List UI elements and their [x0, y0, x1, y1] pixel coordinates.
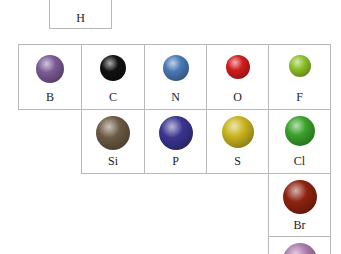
element-symbol: O [207, 90, 268, 105]
element-cell-br: Br [268, 173, 331, 237]
element-cell-c: C [81, 44, 145, 110]
atom-sphere-icon [283, 180, 317, 214]
element-cell-n: N [144, 44, 207, 110]
atom-sphere-icon [283, 243, 317, 254]
element-symbol: C [82, 90, 144, 105]
element-symbol: Br [269, 218, 330, 233]
atom-sphere-icon [159, 116, 193, 150]
element-cell-i: I [268, 236, 331, 254]
element-cell-s: S [206, 109, 269, 174]
atom-sphere-icon [36, 55, 64, 83]
element-symbol: P [145, 154, 206, 169]
element-cell-f: F [268, 44, 331, 110]
element-symbol: S [207, 154, 268, 169]
atom-sphere-icon [289, 55, 311, 77]
atom-sphere-icon [163, 55, 189, 81]
atom-sphere-icon [222, 116, 254, 148]
atom-sphere-icon [285, 116, 315, 146]
element-symbol: F [269, 90, 330, 105]
element-cell-p: P [144, 109, 207, 174]
element-symbol: Cl [269, 154, 330, 169]
element-cell-si: Si [81, 109, 145, 174]
element-symbol: N [145, 90, 206, 105]
atom-sphere-icon [96, 116, 130, 150]
element-cell-o: O [206, 44, 269, 110]
element-cell-b: B [18, 44, 82, 110]
element-cell-h: H [49, 0, 112, 29]
element-symbol: Si [82, 154, 144, 169]
atom-sphere-icon [226, 55, 250, 79]
element-cell-cl: Cl [268, 109, 331, 174]
atom-sphere-icon [100, 55, 126, 81]
element-symbol: H [50, 11, 111, 26]
element-symbol: B [19, 90, 81, 105]
